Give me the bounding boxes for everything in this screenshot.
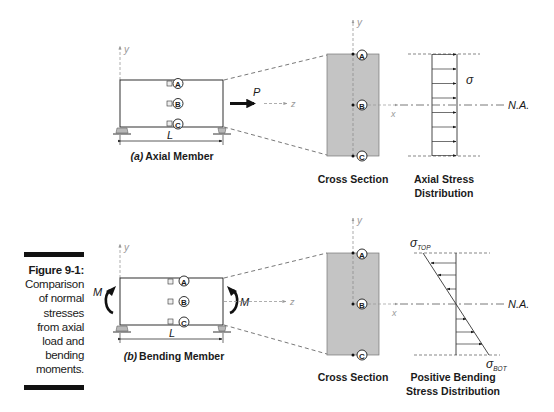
bending-stress-distribution: σTOP σBOT N.A. Positive Bending Stress D…	[400, 236, 529, 397]
section-axis-y-label: y	[356, 215, 363, 226]
section-point-a: A	[359, 251, 365, 260]
beam-a-points: A B C	[167, 79, 183, 130]
axis-z-label: z	[289, 297, 295, 307]
stress-title-line2: Distribution	[415, 187, 474, 199]
support-left-icon	[116, 128, 128, 133]
projection-line-bottom	[224, 127, 327, 155]
point-b-label: B	[175, 100, 181, 109]
stress-title-line1: Axial Stress	[414, 173, 474, 185]
beam-b-y-axis: y	[120, 242, 130, 278]
cross-section-b: y x A B C Cross Section	[318, 215, 398, 383]
beam-a-y-axis: y	[120, 44, 130, 80]
neutral-axis-label: N.A.	[508, 99, 529, 111]
point-c-label: C	[181, 319, 187, 328]
panel-a-title: (a)Axial Member	[130, 150, 213, 162]
section-axis-x-label: x	[391, 308, 397, 318]
point-c-label: C	[175, 121, 181, 130]
caption-line: load and	[18, 334, 84, 348]
point-a-label: A	[181, 278, 187, 287]
panel-b-title: (b)Bending Member	[124, 350, 225, 362]
caption-line: moments.	[18, 362, 84, 376]
caption-line: of normal	[18, 291, 84, 305]
point-b-label: B	[181, 298, 187, 307]
cross-section-title: Cross Section	[318, 371, 389, 383]
support-right-icon	[218, 128, 226, 133]
support-left-icon	[116, 326, 128, 331]
length-label: L	[167, 129, 173, 141]
projection-line-top	[224, 253, 327, 278]
beam-a-length-dimension: L	[120, 129, 223, 145]
axis-y-label: y	[123, 242, 130, 253]
neutral-axis-label: N.A.	[508, 298, 529, 310]
beam-b-z-axis: z	[224, 297, 295, 307]
section-point-c: C	[359, 153, 365, 162]
caption-line: from axial	[18, 320, 84, 334]
length-label: L	[169, 327, 175, 339]
figure-number: Figure 9-1:	[18, 263, 84, 277]
caption-line: stresses	[18, 306, 84, 320]
load-label: P	[253, 86, 261, 98]
cross-section-a: y x A B C Cross Section	[318, 17, 398, 185]
section-point-c: C	[359, 352, 365, 361]
caption-line: Comparison	[18, 277, 84, 291]
panel-b-bending: y A B C L (b)Bending Member	[93, 215, 529, 397]
beam-b-length-dimension: L	[120, 327, 223, 343]
stress-title-line2: Stress Distribution	[406, 385, 500, 397]
point-c-marker	[167, 121, 172, 126]
section-point-b: B	[359, 301, 365, 310]
projection-line-bottom	[224, 325, 327, 354]
stress-title-line1: Positive Bending	[410, 371, 495, 383]
projection-line-top	[224, 55, 327, 80]
sigma-label: σ	[466, 73, 474, 87]
moment-right: M	[227, 286, 250, 313]
section-axis-x-label: x	[390, 109, 396, 119]
panel-a-axial: y A B C L	[113, 17, 529, 199]
cross-section-title: Cross Section	[318, 173, 389, 185]
caption-rule-top	[24, 252, 84, 257]
beam-a-z-axis: z	[264, 99, 296, 109]
moment-left-label: M	[93, 286, 103, 298]
section-point-b: B	[359, 102, 365, 111]
section-axis-y-label: y	[356, 17, 363, 28]
caption-rule-bottom	[24, 385, 84, 390]
moment-right-label: M	[240, 296, 250, 308]
axis-y-label: y	[123, 44, 130, 55]
point-a-marker	[167, 81, 172, 86]
axial-load-p: P	[230, 86, 261, 104]
figure-caption: Figure 9-1: Comparison of normal stresse…	[18, 252, 84, 390]
sigma-top-label: σTOP	[410, 236, 431, 251]
support-right-icon	[218, 326, 226, 331]
point-a-label: A	[175, 80, 181, 89]
axial-stress-distribution: σ N.A. Axial Stress Distribution	[400, 54, 529, 199]
sigma-bot-label: σBOT	[486, 357, 508, 372]
point-b-marker	[167, 101, 172, 106]
axis-z-label: z	[290, 99, 296, 109]
section-point-a: A	[359, 52, 365, 61]
moment-left: M	[93, 286, 116, 313]
beam-b-points: A B C	[168, 276, 189, 328]
caption-line: bending	[18, 348, 84, 362]
